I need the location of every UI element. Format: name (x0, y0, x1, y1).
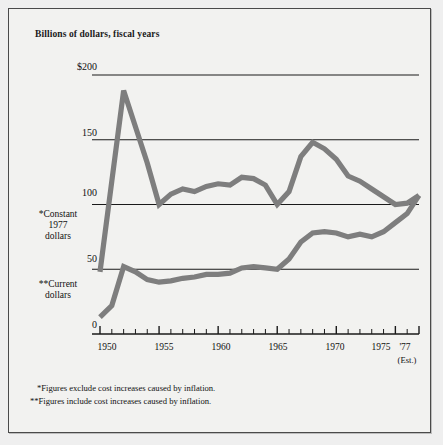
y-tick-label-200: $200 (47, 61, 97, 72)
footnote-constant: *Figures exclude cost increases caused b… (37, 383, 215, 393)
x-tick-label-1955: 1955 (136, 342, 192, 352)
x-tick-label-1977: '77 (391, 342, 419, 352)
series-label-current-line1: **Current (17, 279, 99, 291)
series-label-current-line2: dollars (17, 290, 99, 302)
series-label-constant-line2: 1977 (17, 220, 99, 232)
x-axis-estimate-note: (Est.) (387, 355, 427, 365)
x-tick-label-1970: 1970 (307, 342, 363, 352)
x-tick-label-1950: 1950 (79, 342, 135, 352)
chart-frame: Billions of dollars, fiscal years $200 1… (8, 8, 431, 433)
x-tick-label-1965: 1965 (250, 342, 306, 352)
y-tick-label-0: 0 (47, 319, 97, 330)
y-tick-label-150: 150 (47, 127, 97, 138)
series-label-constant-line3: dollars (17, 231, 99, 243)
x-tick-label-1960: 1960 (193, 342, 249, 352)
y-tick-label-100: 100 (47, 187, 97, 198)
y-tick-label-50: 50 (47, 253, 97, 264)
footnote-current: **Figures include cost increases caused … (30, 396, 211, 406)
series-label-constant-line1: *Constant (17, 209, 99, 221)
